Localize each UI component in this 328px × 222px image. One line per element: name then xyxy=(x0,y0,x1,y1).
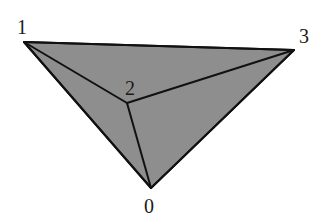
vertex-label-2: 2 xyxy=(125,78,135,98)
vertex-label-1: 1 xyxy=(17,17,27,37)
vertex-label-0: 0 xyxy=(144,196,154,216)
diagram-canvas xyxy=(0,0,328,222)
vertex-label-3: 3 xyxy=(299,26,309,46)
